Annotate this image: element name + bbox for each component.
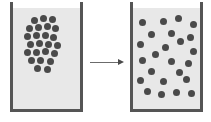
left-beaker-right-wall [80, 2, 83, 112]
right-beaker-left-wall [130, 2, 133, 112]
particle [160, 78, 167, 85]
particle [139, 57, 146, 64]
particle [176, 69, 183, 76]
particle [50, 34, 57, 41]
particle [24, 49, 31, 56]
particle [137, 41, 144, 48]
particle [148, 31, 155, 38]
particle [31, 17, 38, 24]
left-beaker-left-wall [10, 2, 13, 112]
particle [190, 21, 197, 28]
particle [168, 58, 175, 65]
arrow-right-icon [90, 57, 124, 68]
arrow-shaft [90, 62, 119, 63]
particle [148, 68, 155, 75]
arrow-head [118, 59, 124, 65]
right-beaker-right-wall [200, 2, 203, 112]
particle [26, 25, 33, 32]
particle [33, 32, 40, 39]
particle [162, 44, 169, 51]
particle [44, 23, 51, 30]
particle [37, 57, 44, 64]
particle [40, 15, 47, 22]
particle [42, 32, 49, 39]
particle [160, 18, 167, 25]
particle [144, 88, 151, 95]
particle [139, 19, 146, 26]
left-beaker [10, 2, 83, 112]
particle [54, 42, 61, 49]
particle [49, 16, 56, 23]
particle [34, 65, 41, 72]
left-beaker-floor [10, 109, 83, 112]
particle [188, 90, 195, 97]
particle [52, 25, 59, 32]
particle [173, 89, 180, 96]
right-beaker-floor [130, 109, 203, 112]
particle [177, 38, 184, 45]
particle [185, 60, 192, 67]
particle [51, 50, 58, 57]
particle [175, 15, 182, 22]
diffusion-diagram: Two beakers side by side connected by a … [0, 0, 211, 122]
particle [28, 57, 35, 64]
particle [45, 41, 52, 48]
particle [35, 24, 42, 31]
particle [152, 51, 159, 58]
particle [27, 41, 34, 48]
right-beaker [130, 2, 203, 112]
figure-description: Two beakers side by side connected by a … [0, 0, 1, 1]
particle [158, 91, 165, 98]
particle [36, 40, 43, 47]
particle [47, 58, 54, 65]
particle [42, 48, 49, 55]
particle [33, 49, 40, 56]
particle [190, 48, 197, 55]
particle [44, 66, 51, 73]
particle [24, 33, 31, 40]
particle [183, 76, 190, 83]
particle [187, 34, 194, 41]
particle [168, 30, 175, 37]
particle [137, 77, 144, 84]
